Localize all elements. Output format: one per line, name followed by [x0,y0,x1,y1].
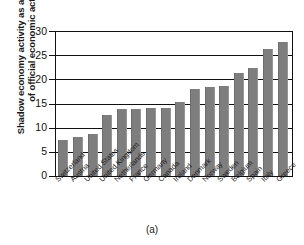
bar-slot-sweden [217,31,232,176]
bar-slot-italy [261,31,276,176]
y-axis-title-line1: Shadow economy activity as a percentage [15,0,26,134]
bar-slot-spain [246,31,261,176]
y-tick-label-30: 30 [27,26,47,37]
x-axis-ticklabels: Switzerland Austria United States United… [55,178,291,228]
y-axis-title-line2: of official economic activity [26,0,38,134]
bar-slot-greece [275,31,290,176]
y-tick-label-25: 25 [27,50,47,61]
bar-greece[interactable] [278,42,288,176]
y-tick-label-0: 0 [27,170,47,181]
bar-italy[interactable] [263,49,273,176]
figure-caption: (a) [0,224,304,235]
y-tick-label-10: 10 [27,122,47,133]
bar-slot-ireland [173,31,188,176]
bar-slot-switzerland [56,31,71,176]
bar-slot-belgium [232,31,247,176]
y-tick-label-20: 20 [27,74,47,85]
y-tick-label-15: 15 [27,98,47,109]
y-tick-label-5: 5 [27,146,47,157]
figure-panel: Shadow economy activity as a percentage … [0,0,304,245]
bar-series [55,31,291,176]
bar-slot-united-states [85,31,100,176]
bar-slot-canada [158,31,173,176]
bar-slot-norway [202,31,217,176]
bar-slot-denmark [188,31,203,176]
